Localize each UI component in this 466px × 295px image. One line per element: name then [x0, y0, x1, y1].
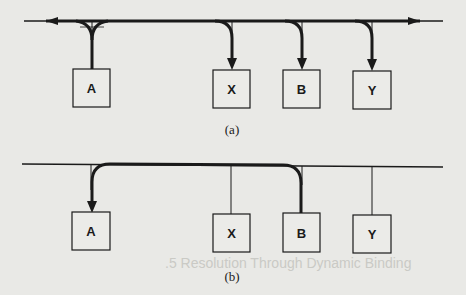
caption-b: (b)	[224, 269, 239, 284]
panel-a: A X B Y (a)	[24, 17, 443, 137]
arrowhead-b-icon	[297, 58, 307, 70]
drop-x	[215, 21, 232, 60]
node-label: X	[227, 226, 236, 241]
curve-a-left	[76, 21, 92, 69]
node-b: B	[283, 70, 320, 108]
drop-y	[355, 21, 372, 61]
node-label: Y	[368, 227, 377, 242]
node-label: X	[227, 82, 236, 97]
node-label: Y	[368, 83, 377, 98]
node-label: B	[297, 82, 306, 97]
caption-a: (a)	[225, 122, 239, 137]
node-y: Y	[353, 215, 391, 253]
arrowhead-a-icon	[87, 201, 97, 213]
node-y: Y	[353, 71, 391, 109]
curve-a-right	[92, 21, 108, 40]
node-x: X	[213, 70, 250, 108]
node-a: A	[73, 69, 110, 107]
node-label: A	[86, 224, 96, 239]
message-path-b-to-a	[92, 164, 301, 213]
arrowhead-left-icon	[46, 17, 58, 25]
drop-b	[285, 21, 302, 60]
node-label: B	[297, 226, 306, 241]
background-section-heading: .5 Resolution Through Dynamic Binding	[165, 255, 411, 271]
arrowhead-x-icon	[227, 58, 237, 70]
node-label: A	[87, 81, 97, 96]
node-a: A	[72, 212, 110, 250]
arrowhead-right-icon	[408, 17, 420, 25]
arrowhead-y-icon	[367, 59, 377, 71]
node-x: X	[213, 214, 250, 252]
node-b: B	[283, 213, 320, 252]
network-figure: .5 Resolution Through Dynamic Binding A	[0, 0, 466, 295]
